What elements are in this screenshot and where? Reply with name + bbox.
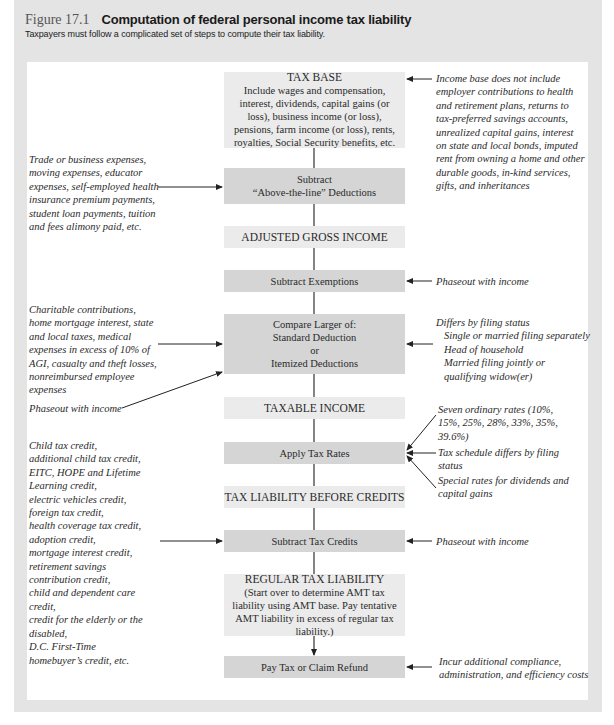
step-liability-before-credits: TAX LIABILITY BEFORE CREDITS (224, 486, 405, 508)
note-rates-schedule: Tax schedule differs by filing status (438, 446, 563, 473)
step-tax-base: TAX BASE Include wages and compensation,… (224, 72, 405, 148)
step-apply-rates: Apply Tax Rates (224, 442, 405, 464)
step-regular-liability: REGULAR TAX LIABILITY (Start over to det… (224, 574, 405, 636)
step-pay-tax: Pay Tax or Claim Refund (224, 656, 405, 678)
note-credits-list: Child tax credit, additional child tax c… (29, 439, 169, 667)
note-above-line: Trade or business expenses, moving expen… (29, 153, 161, 233)
step-line: Itemized Deductions (271, 357, 358, 370)
credit-item: contribution credit, (29, 573, 169, 586)
step-line: Subtract Tax Credits (272, 535, 358, 548)
credit-item: homebuyer’s credit, etc. (29, 654, 169, 667)
credit-item: mortgage interest credit, (29, 546, 169, 559)
note-pay-costs: Incur additional compliance, administrat… (439, 655, 589, 682)
step-compare-deductions: Compare Larger of: Standard Deduction or… (224, 314, 405, 374)
step-agi: ADJUSTED GROSS INCOME (224, 226, 405, 248)
step-tax-credits: Subtract Tax Credits (224, 530, 405, 552)
step-title: REGULAR TAX LIABILITY (245, 573, 384, 586)
step-exemptions: Subtract Exemptions (224, 270, 405, 292)
filing-status-item: Married filing jointly or (436, 356, 606, 369)
note-income-base: Income base does not include employer co… (436, 72, 586, 193)
step-above-the-line: Subtract “Above-the-line” Deductions (224, 168, 405, 204)
figure-label: Figure 17.1 (25, 12, 90, 27)
figure-subtitle: Taxpayers must follow a complicated set … (25, 29, 595, 39)
credit-item: credit for the elderly or the (29, 613, 169, 626)
note-itemized: Charitable contributions, home mortgage … (29, 303, 159, 397)
note-rates-seven: Seven ordinary rates (10%, 15%, 25%, 28%… (438, 403, 563, 443)
step-title: TAX BASE (287, 71, 342, 84)
credit-item: electric vehicles credit, (29, 493, 169, 506)
note-filing-status: Differs by filing status Single or marri… (436, 316, 606, 383)
filing-status-item: Head of household (436, 343, 606, 356)
credit-item: disabled, (29, 627, 169, 640)
step-line: Subtract Exemptions (271, 275, 359, 288)
step-line: or (310, 344, 319, 357)
credit-item: Learning credit, (29, 479, 169, 492)
figure-title: Computation of federal personal income t… (102, 12, 412, 27)
filing-status-item: qualifying widow(er) (436, 370, 606, 383)
step-title: TAXABLE INCOME (264, 402, 365, 415)
credit-item: foreign tax credit, (29, 506, 169, 519)
step-taxable-income: TAXABLE INCOME (224, 397, 405, 419)
credit-item: EITC, HOPE and Lifetime (29, 466, 169, 479)
credit-item: child and dependent care (29, 586, 169, 599)
credit-item: credit, (29, 600, 169, 613)
step-title: TAX LIABILITY BEFORE CREDITS (225, 491, 405, 504)
note-itemized-phaseout: Phaseout with income (29, 402, 159, 415)
filing-status-item: Single or married filing separately (436, 329, 606, 342)
step-line: Apply Tax Rates (279, 447, 349, 460)
step-line: Pay Tax or Claim Refund (261, 661, 368, 674)
filing-status-heading: Differs by filing status (436, 316, 606, 329)
figure-header: Figure 17.1 Computation of federal perso… (25, 10, 595, 39)
note-rates-special: Special rates for dividends and capital … (438, 474, 573, 501)
credit-item: D.C. First-Time (29, 640, 169, 653)
credit-item: adoption credit, (29, 533, 169, 546)
note-credits-phaseout: Phaseout with income (436, 535, 586, 548)
step-line: “Above-the-line” Deductions (253, 186, 376, 199)
step-description: (Start over to determine AMT tax liabili… (224, 586, 405, 638)
step-line: Compare Larger of: (273, 318, 356, 331)
step-description: Include wages and compensation, interest… (224, 84, 405, 149)
step-title: ADJUSTED GROSS INCOME (241, 231, 387, 244)
credit-item: additional child tax credit, (29, 452, 169, 465)
credit-item: retirement savings (29, 560, 169, 573)
note-exemptions-phaseout: Phaseout with income (436, 275, 586, 288)
step-line: Standard Deduction (273, 331, 357, 344)
credit-item: Child tax credit, (29, 439, 169, 452)
step-line: Subtract (297, 173, 332, 186)
credit-item: health coverage tax credit, (29, 519, 169, 532)
